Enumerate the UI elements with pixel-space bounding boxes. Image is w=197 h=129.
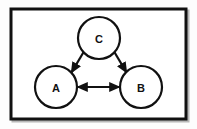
diagram-canvas: C A B: [0, 0, 197, 129]
node-label-c: C: [95, 33, 103, 45]
node-label-b: B: [137, 82, 145, 94]
node-link-diagram: C A B: [0, 0, 197, 129]
node-label-a: A: [52, 82, 60, 94]
